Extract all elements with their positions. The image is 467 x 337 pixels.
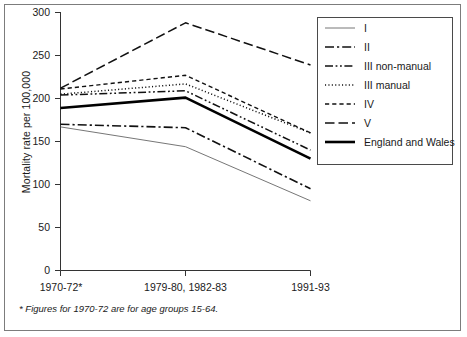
y-tick-label-300: 300	[16, 6, 50, 18]
legend-label-iv: IV	[364, 98, 374, 110]
legend-label-i: I	[364, 22, 367, 34]
legend-sample-dash-dot-dot-icon	[325, 59, 355, 73]
legend-sample-solid-thick-icon	[325, 135, 355, 149]
y-tick-label-250: 250	[16, 49, 50, 61]
y-tick-label-100: 100	[16, 178, 50, 190]
chart-series-group	[61, 23, 311, 201]
series-line-V	[61, 23, 311, 88]
chart-legend: I II III non-manual III manual IV	[317, 17, 453, 165]
legend-item-i[interactable]: I	[318, 18, 452, 37]
figure-container: Mortality rate per 100,000 300 250 200 1…	[0, 0, 467, 337]
chart-footnote: * Figures for 1970-72 are for age groups…	[19, 303, 218, 314]
legend-label-england-and-wales: England and Wales	[364, 136, 455, 148]
legend-item-ii[interactable]: II	[318, 37, 452, 56]
y-tick-marks	[55, 13, 61, 271]
x-tick-marks	[61, 271, 311, 277]
x-tick-label-1991-93: 1991-93	[272, 281, 349, 293]
legend-item-iii-non-manual[interactable]: III non-manual	[318, 56, 452, 75]
x-tick-label-1979-80-1982-83: 1979-80, 1982-83	[125, 281, 246, 293]
series-line-II	[61, 124, 311, 189]
legend-label-ii: II	[364, 41, 370, 53]
legend-item-england-and-wales[interactable]: England and Wales	[318, 132, 452, 151]
legend-sample-dotted-icon	[325, 78, 355, 92]
legend-sample-solid-thin-icon	[325, 21, 355, 35]
legend-sample-dash-dot-icon	[325, 40, 355, 54]
series-line-I	[61, 127, 311, 201]
legend-item-v[interactable]: V	[318, 113, 452, 132]
y-tick-label-150: 150	[16, 135, 50, 147]
legend-item-iii-manual[interactable]: III manual	[318, 75, 452, 94]
legend-label-v: V	[364, 117, 371, 129]
y-tick-label-50: 50	[16, 221, 50, 233]
legend-label-iii-manual: III manual	[364, 79, 410, 91]
y-tick-label-200: 200	[16, 92, 50, 104]
legend-item-iv[interactable]: IV	[318, 94, 452, 113]
legend-label-iii-non-manual: III non-manual	[364, 60, 431, 72]
x-tick-label-1970-72: 1970-72*	[21, 281, 101, 293]
y-tick-label-0: 0	[16, 264, 50, 276]
legend-sample-short-dash-icon	[325, 97, 355, 111]
legend-sample-long-dash-icon	[325, 116, 355, 130]
